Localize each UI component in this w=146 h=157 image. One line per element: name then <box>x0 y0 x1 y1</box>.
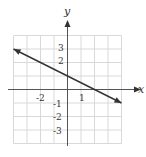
y-tick-label: -2 <box>53 112 62 122</box>
y-tick-label: -3 <box>53 126 62 136</box>
y-tick-label: -1 <box>53 99 62 109</box>
x-tick-label: 1 <box>79 93 85 103</box>
y-axis-label: y <box>63 5 71 18</box>
coordinate-plane: x y -2 1 3 2 -1 -2 -3 <box>0 0 146 157</box>
x-tick-label: -2 <box>36 93 45 103</box>
x-axis-label: x <box>138 83 145 96</box>
y-axis-arrow-icon <box>65 20 71 27</box>
y-tick-label: 3 <box>58 43 64 53</box>
y-tick-label: 2 <box>58 56 64 66</box>
